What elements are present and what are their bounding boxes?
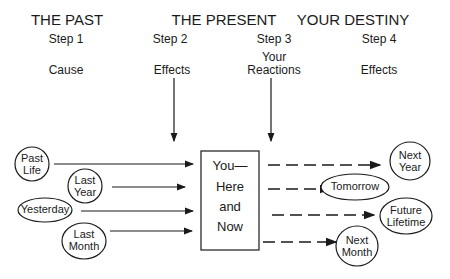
node-last-month: LastMonth	[69, 229, 100, 252]
node-past-life: PastLife	[21, 153, 43, 176]
label-reactions: Reactions	[247, 64, 300, 77]
heading-destiny: YOUR DESTINY	[297, 12, 410, 29]
node-yesterday: Yesterday	[21, 204, 70, 216]
step-2: Step 2	[153, 33, 188, 46]
node-future-lifetime: FutureLifetime	[387, 205, 426, 228]
heading-present: THE PRESENT	[171, 12, 276, 29]
cause-effect-diagram: THE PAST THE PRESENT YOUR DESTINY Step 1…	[0, 0, 450, 279]
node-next-month: NextMonth	[342, 235, 373, 258]
heading-past: THE PAST	[31, 12, 103, 29]
label-effects-destiny: Effects	[361, 64, 397, 77]
step-4: Step 4	[362, 33, 397, 46]
node-next-year: NextYear	[399, 150, 422, 173]
box-line-2: Here	[216, 180, 244, 194]
label-effects-present: Effects	[154, 64, 190, 77]
step-1: Step 1	[49, 33, 84, 46]
step-3: Step 3	[257, 33, 292, 46]
box-line-1: You—	[213, 159, 248, 173]
node-tomorrow: Tomorrow	[331, 181, 379, 193]
box-line-3: and	[219, 200, 241, 214]
box-line-4: Now	[217, 220, 243, 234]
node-last-year: LastYear	[74, 175, 96, 198]
label-cause: Cause	[49, 64, 84, 77]
